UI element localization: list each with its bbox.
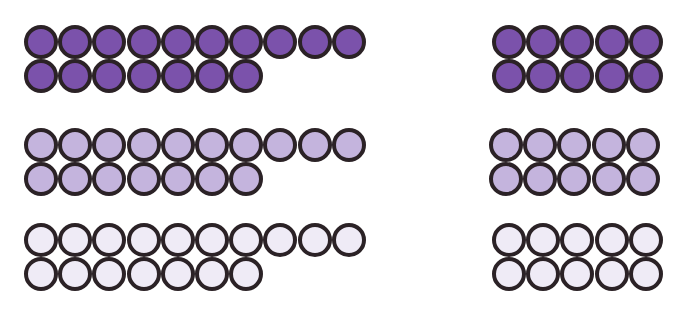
counter-row	[24, 223, 366, 257]
light-counter-circle	[58, 223, 92, 257]
dark-counter-circle	[195, 59, 229, 93]
medium-counter-circle	[332, 128, 366, 162]
counter-row	[492, 223, 663, 257]
counter-group-light-right	[492, 223, 663, 291]
light-counter-circle	[492, 223, 526, 257]
medium-counter-circle	[557, 128, 591, 162]
counter-row	[489, 128, 660, 162]
light-counter-circle	[24, 223, 58, 257]
counter-group-light-left	[24, 223, 366, 291]
medium-counter-circle	[92, 162, 126, 196]
light-counter-circle	[526, 257, 560, 291]
counter-row	[24, 59, 366, 93]
medium-counter-circle	[24, 162, 58, 196]
dark-counter-circle	[595, 59, 629, 93]
dark-counter-circle	[492, 25, 526, 59]
dark-counter-circle	[127, 25, 161, 59]
light-counter-circle	[92, 223, 126, 257]
medium-counter-circle	[195, 128, 229, 162]
light-counter-circle	[263, 223, 297, 257]
counter-row	[492, 257, 663, 291]
counter-row	[24, 128, 366, 162]
medium-counter-circle	[58, 128, 92, 162]
dark-counter-circle	[595, 25, 629, 59]
counter-row	[492, 25, 663, 59]
counter-group-dark-right	[492, 25, 663, 93]
dark-counter-circle	[560, 59, 594, 93]
light-counter-circle	[161, 257, 195, 291]
medium-counter-circle	[592, 162, 626, 196]
light-counter-circle	[629, 223, 663, 257]
medium-counter-circle	[229, 162, 263, 196]
light-counter-circle	[195, 223, 229, 257]
medium-counter-circle	[195, 162, 229, 196]
counter-row	[24, 162, 366, 196]
light-counter-circle	[127, 257, 161, 291]
light-counter-circle	[92, 257, 126, 291]
counter-group-medium-right	[489, 128, 660, 196]
dark-counter-circle	[229, 25, 263, 59]
light-counter-circle	[195, 257, 229, 291]
dark-counter-circle	[629, 25, 663, 59]
medium-counter-circle	[161, 162, 195, 196]
dark-counter-circle	[24, 59, 58, 93]
dark-counter-circle	[127, 59, 161, 93]
dark-counter-circle	[58, 25, 92, 59]
dark-counter-circle	[24, 25, 58, 59]
counter-group-medium-left	[24, 128, 366, 196]
dark-counter-circle	[92, 25, 126, 59]
light-counter-circle	[560, 223, 594, 257]
light-counter-circle	[595, 257, 629, 291]
dark-counter-circle	[263, 25, 297, 59]
counter-row	[489, 162, 660, 196]
light-counter-circle	[332, 223, 366, 257]
medium-counter-circle	[489, 162, 523, 196]
light-counter-circle	[24, 257, 58, 291]
dark-counter-circle	[560, 25, 594, 59]
light-counter-circle	[229, 223, 263, 257]
dark-counter-circle	[526, 25, 560, 59]
medium-counter-circle	[592, 128, 626, 162]
medium-counter-circle	[626, 128, 660, 162]
light-counter-circle	[127, 223, 161, 257]
dark-counter-circle	[58, 59, 92, 93]
dark-counter-circle	[526, 59, 560, 93]
medium-counter-circle	[161, 128, 195, 162]
medium-counter-circle	[263, 128, 297, 162]
counter-row	[492, 59, 663, 93]
dark-counter-circle	[229, 59, 263, 93]
medium-counter-circle	[24, 128, 58, 162]
medium-counter-circle	[626, 162, 660, 196]
dark-counter-circle	[161, 59, 195, 93]
medium-counter-circle	[523, 128, 557, 162]
medium-counter-circle	[92, 128, 126, 162]
dark-counter-circle	[195, 25, 229, 59]
light-counter-circle	[161, 223, 195, 257]
dark-counter-circle	[492, 59, 526, 93]
medium-counter-circle	[229, 128, 263, 162]
medium-counter-circle	[127, 162, 161, 196]
dark-counter-circle	[161, 25, 195, 59]
counter-group-dark-left	[24, 25, 366, 93]
dark-counter-circle	[298, 25, 332, 59]
dark-counter-circle	[332, 25, 366, 59]
light-counter-circle	[492, 257, 526, 291]
light-counter-circle	[526, 223, 560, 257]
medium-counter-circle	[298, 128, 332, 162]
medium-counter-circle	[127, 128, 161, 162]
medium-counter-circle	[557, 162, 591, 196]
light-counter-circle	[560, 257, 594, 291]
dark-counter-circle	[92, 59, 126, 93]
light-counter-circle	[298, 223, 332, 257]
medium-counter-circle	[58, 162, 92, 196]
dark-counter-circle	[629, 59, 663, 93]
light-counter-circle	[595, 223, 629, 257]
counter-row	[24, 257, 366, 291]
light-counter-circle	[58, 257, 92, 291]
light-counter-circle	[229, 257, 263, 291]
counter-row	[24, 25, 366, 59]
medium-counter-circle	[523, 162, 557, 196]
light-counter-circle	[629, 257, 663, 291]
medium-counter-circle	[489, 128, 523, 162]
